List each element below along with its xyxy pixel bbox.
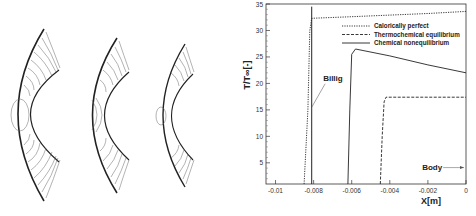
y-axis-label: T/T∞[-] xyxy=(242,61,252,90)
contour-panel-2 xyxy=(92,38,129,193)
y-tick-label: 15 xyxy=(256,106,264,113)
legend-label: Calorically perfect xyxy=(374,22,429,30)
legend: Calorically perfectThermochemical equili… xyxy=(342,22,460,47)
y-tick-label: 10 xyxy=(256,133,264,140)
contour-panel-1 xyxy=(11,29,60,201)
x-tick-label: -0.002 xyxy=(419,187,438,194)
billig-leader xyxy=(312,84,325,107)
y-tick-label: 25 xyxy=(256,53,264,60)
y-tick-label: 30 xyxy=(256,27,264,34)
contour-panel-3 xyxy=(156,44,194,187)
billig-label: Billig xyxy=(323,74,343,83)
arrowhead-icon xyxy=(460,166,464,169)
x-tick-label: 0 xyxy=(464,187,468,194)
y-tick-label: 20 xyxy=(256,80,264,87)
y-tick-label: 5 xyxy=(259,159,263,166)
legend-label: Thermochemical equilibrium xyxy=(374,31,460,39)
body-label: Body xyxy=(422,163,443,172)
x-tick-label: -0.004 xyxy=(381,187,400,194)
bow-shock-contour-plots xyxy=(0,0,238,216)
y-tick-label: 35 xyxy=(256,1,264,8)
x-tick-label: -0.01 xyxy=(268,187,283,194)
legend-label: Chemical nonequilibrium xyxy=(374,39,450,47)
x-axis-label: X[m] xyxy=(421,196,441,206)
y-axis: 5101520253035 xyxy=(256,1,270,179)
x-tick-label: -0.008 xyxy=(304,187,323,194)
temperature-profile-chart: 5101520253035 -0.01-0.008-0.006-0.004-0.… xyxy=(238,0,476,216)
annotations: BilligBody xyxy=(312,74,464,172)
series-chemical-nonequilibrium xyxy=(348,49,466,184)
x-tick-label: -0.006 xyxy=(342,187,361,194)
x-axis: -0.01-0.008-0.006-0.004-0.0020 xyxy=(268,180,468,194)
